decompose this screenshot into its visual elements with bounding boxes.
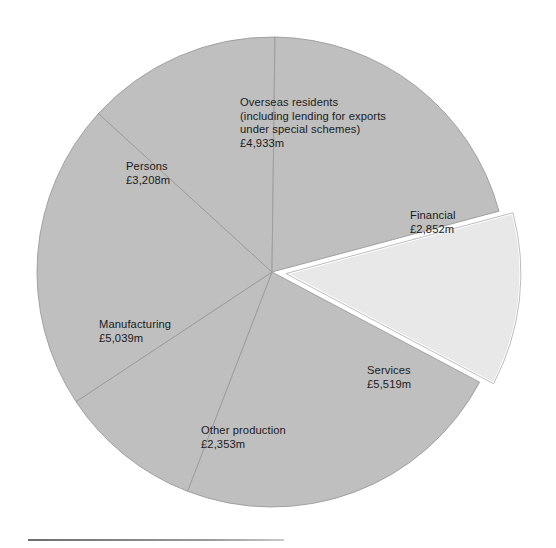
pie-chart-canvas: [0, 0, 556, 548]
footer-divider-rule: [28, 539, 284, 541]
pie-chart-figure: Financial£2,852mServices£5,519mOther pro…: [0, 0, 556, 548]
pie-slices-group: [37, 37, 521, 507]
